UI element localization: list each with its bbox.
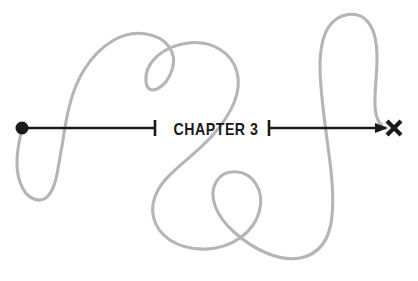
chapter-title-label: CHAPTER 3: [173, 120, 258, 138]
illustration-canvas: CHAPTER 3: [0, 0, 418, 281]
start-dot-icon: [16, 122, 29, 135]
chapter-divider-figure: CHAPTER 3: [0, 0, 418, 281]
